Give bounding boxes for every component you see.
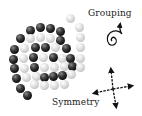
gestalt-diagram: Grouping Symmetry [0,0,142,116]
symmetry-label: Symmetry [52,97,99,107]
